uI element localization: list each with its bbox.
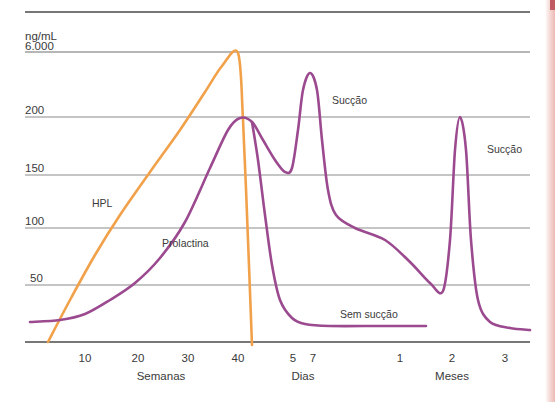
curve-hpl	[48, 50, 252, 345]
x-tick-meses-1: 1	[397, 352, 403, 364]
y-tick-label-50: 50	[30, 272, 43, 284]
x-tick-semanas-10: 10	[79, 352, 92, 364]
series-label-prolactina: Prolactina	[162, 237, 209, 249]
y-tick-label-100: 100	[25, 215, 44, 227]
x-tick-dias-7: 7	[310, 352, 316, 364]
x-ticks-meses: 1 2 3	[397, 352, 508, 364]
chart-svg: ng/mL 6.000 200 150 100 50 HPL Prolactin…	[0, 0, 555, 402]
x-tick-semanas-20: 20	[132, 352, 145, 364]
x-tick-semanas-40: 40	[232, 352, 245, 364]
x-ticks-dias: 5 7	[290, 352, 316, 364]
curve-sem-succao	[252, 122, 426, 326]
x-axis-title-semanas: Semanas	[137, 370, 186, 382]
prolactin-hpl-chart: ng/mL 6.000 200 150 100 50 HPL Prolactin…	[0, 0, 555, 402]
y-tick-label-6000: 6.000	[25, 40, 54, 52]
x-tick-dias-5: 5	[290, 352, 296, 364]
annotation-succao-2: Sucção	[487, 143, 522, 155]
page-edge-strip	[545, 0, 555, 402]
page-edge-marker	[550, 0, 555, 10]
series-label-sem-succao: Sem sucção	[340, 308, 398, 320]
series-label-hpl: HPL	[92, 197, 113, 209]
annotation-succao-1: Sucção	[332, 94, 367, 106]
x-tick-meses-3: 3	[502, 352, 508, 364]
x-axis-title-dias: Dias	[291, 370, 314, 382]
y-tick-label-150: 150	[25, 162, 44, 174]
x-tick-semanas-30: 30	[182, 352, 195, 364]
x-ticks-semanas: 10 20 30 40	[79, 352, 245, 364]
x-tick-meses-2: 2	[449, 352, 455, 364]
y-tick-label-200: 200	[25, 104, 44, 116]
x-axis-title-meses: Meses	[435, 370, 469, 382]
